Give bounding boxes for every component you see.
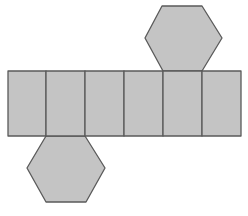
side-4-rectangle: [124, 71, 163, 136]
top-base-hexagon: [145, 6, 222, 71]
side-5-rectangle: [163, 71, 202, 136]
side-2-rectangle: [46, 71, 85, 136]
hexagonal-prism-net: [0, 0, 248, 216]
bottom-base-hexagon: [27, 136, 105, 202]
side-3-rectangle: [85, 71, 124, 136]
side-1-rectangle: [8, 71, 46, 136]
side-6-rectangle: [202, 71, 241, 136]
